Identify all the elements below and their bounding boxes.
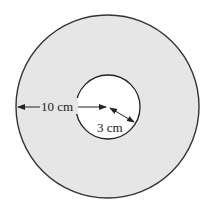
annulus-diagram: 10 cm 3 cm (0, 0, 212, 210)
outer-radius-label: 10 cm (41, 99, 73, 114)
inner-radius-label: 3 cm (97, 120, 123, 135)
